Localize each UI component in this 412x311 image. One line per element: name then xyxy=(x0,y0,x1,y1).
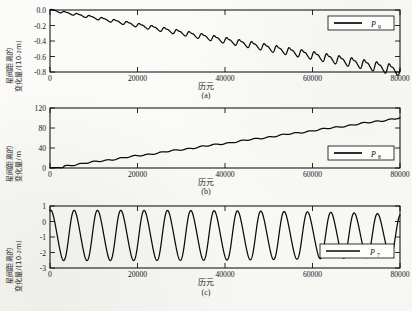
panel-c-xlabel: 历元 xyxy=(0,276,412,287)
panel-a-legend-subscript: 9 xyxy=(378,24,381,30)
panel-a-plot: 0.0 -0.2 -0.4 -0.6 -0.8 xyxy=(0,0,412,82)
panel-c-caption: (c) xyxy=(0,288,412,297)
panel-a-ytick-1: -0.2 xyxy=(34,22,46,31)
panel-c: 星间距离的 变化量/(10-2m) xyxy=(0,200,412,311)
panel-b-plot: 120 80 40 0 0 20000 400 xyxy=(0,100,412,180)
panel-c-ytick-2: -1 xyxy=(40,233,47,242)
panel-b-legend-subscript: 8 xyxy=(378,154,381,160)
panel-a-caption: (a) xyxy=(0,91,412,100)
panel-c-ytick-4: -3 xyxy=(40,264,47,273)
panel-b-caption: (b) xyxy=(0,187,412,196)
panel-b-xlabel: 历元 xyxy=(0,176,412,187)
panel-c-ytick-0: 1 xyxy=(42,202,46,211)
panel-a-svg: 0.0 -0.2 -0.4 -0.6 -0.8 xyxy=(0,0,412,82)
panel-c-legend: P 7 xyxy=(320,244,394,258)
panel-a-ytick-2: -0.4 xyxy=(34,37,46,46)
panel-b-legend-symbol: P xyxy=(370,150,376,159)
figure-page: 星间距离的 变化量/(10-2m) xyxy=(0,0,412,311)
panel-c-ytick-3: -2 xyxy=(40,249,47,258)
panel-b-ytick-0: 120 xyxy=(35,104,47,113)
panel-b-ytick-2: 40 xyxy=(38,144,46,153)
panel-a-legend-symbol: P xyxy=(370,20,376,29)
panel-b-svg: 120 80 40 0 0 20000 400 xyxy=(0,100,412,180)
panel-b-ytick-1: 80 xyxy=(38,124,46,133)
panel-a: 星间距离的 变化量/(10-2m) xyxy=(0,0,412,104)
panel-c-ytick-1: 0 xyxy=(42,218,46,227)
panel-a-legend: P 9 xyxy=(328,16,394,30)
panel-c-legend-subscript: 7 xyxy=(377,252,380,258)
panel-b: 星间距离的 变化量/m 120 80 xyxy=(0,100,412,200)
panel-c-legend-symbol: P xyxy=(369,248,375,257)
panel-b-ytick-3: 0 xyxy=(42,164,46,173)
panel-a-ytick-3: -0.6 xyxy=(34,53,46,62)
panel-a-xlabel: 历元 xyxy=(0,80,412,91)
panel-a-ytick-0: 0.0 xyxy=(37,6,47,15)
panel-b-legend: P 8 xyxy=(328,146,394,160)
panel-a-ytick-4: -0.8 xyxy=(34,68,46,77)
panel-c-plot: 1 0 -1 -2 -3 0 20000 xyxy=(0,200,412,282)
panel-c-svg: 1 0 -1 -2 -3 0 20000 xyxy=(0,200,412,282)
